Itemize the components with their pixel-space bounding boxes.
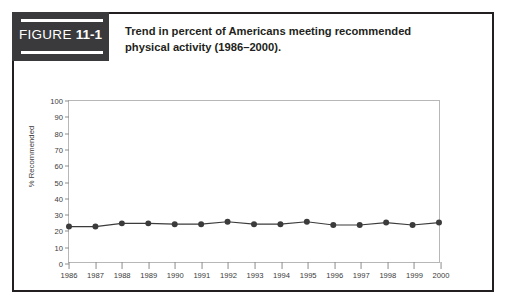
x-axis-tick-label: 1993 (247, 271, 264, 280)
y-axis-tick: 20 (55, 227, 69, 236)
x-axis-tick: 1986 (61, 262, 78, 280)
y-axis-tick-mark (65, 182, 69, 183)
line-series (69, 101, 439, 262)
x-axis-tick: 1998 (379, 262, 396, 280)
y-axis-tick: 60 (55, 162, 69, 171)
y-axis-tick-mark (65, 247, 69, 248)
x-axis-tick-mark (122, 262, 123, 269)
x-axis-tick-label: 1997 (353, 271, 370, 280)
x-axis-tick: 1987 (87, 262, 104, 280)
figure-number-block: FIGURE 11-1 (12, 12, 109, 61)
x-axis-tick: 1997 (353, 262, 370, 280)
x-axis-tick-mark (148, 262, 149, 269)
y-axis-tick: 40 (55, 194, 69, 203)
y-axis-tick-label: 60 (55, 162, 65, 171)
y-axis-tick: 50 (55, 178, 69, 187)
y-axis-tick-mark (65, 198, 69, 199)
chart-area: % Recommended 01020304050607080901001986… (14, 88, 492, 288)
y-axis-tick-label: 40 (55, 194, 65, 203)
x-axis-tick-label: 1994 (273, 271, 290, 280)
y-axis-tick-mark (65, 149, 69, 150)
x-axis-tick-mark (361, 262, 362, 269)
data-point-marker (330, 222, 336, 228)
x-axis-tick: 1999 (406, 262, 423, 280)
x-axis-tick-label: 1987 (87, 271, 104, 280)
x-axis-tick: 1996 (326, 262, 343, 280)
figure-word: FIGURE (19, 27, 72, 42)
figure-number-label: FIGURE 11-1 (12, 27, 109, 42)
data-point-marker (277, 221, 283, 227)
x-axis-tick-label: 1991 (193, 271, 210, 280)
data-point-marker (225, 219, 231, 225)
y-axis-tick: 80 (55, 129, 69, 138)
figure-container: FIGURE 11-1 Trend in percent of American… (0, 0, 508, 308)
x-axis-tick-label: 1988 (114, 271, 131, 280)
y-axis-tick: 90 (55, 113, 69, 122)
y-axis-tick-mark (65, 215, 69, 216)
x-axis-tick-label: 1986 (61, 271, 78, 280)
x-axis-tick: 1989 (140, 262, 157, 280)
x-axis-tick-mark (95, 262, 96, 269)
y-axis-tick-mark (65, 101, 69, 102)
x-axis-tick-mark (201, 262, 202, 269)
x-axis-tick-mark (387, 262, 388, 269)
y-axis-tick: 30 (55, 211, 69, 220)
y-axis-tick-label: 50 (55, 178, 65, 187)
y-axis-tick-label: 90 (55, 113, 65, 122)
x-axis-tick: 1993 (247, 262, 264, 280)
x-axis-tick: 1991 (193, 262, 210, 280)
data-point-marker (92, 224, 98, 230)
y-axis-tick: 70 (55, 145, 69, 154)
figure-block-rule-top (21, 19, 103, 22)
x-axis-tick-label: 1996 (326, 271, 343, 280)
x-axis-tick-label: 1995 (300, 271, 317, 280)
x-axis-tick: 2000 (433, 262, 450, 280)
y-axis-tick-mark (65, 133, 69, 134)
x-axis-tick-label: 1990 (167, 271, 184, 280)
x-axis-tick: 1992 (220, 262, 237, 280)
y-axis-tick-label: 100 (50, 97, 65, 106)
y-axis-tick: 100 (50, 97, 69, 106)
data-point-marker (198, 221, 204, 227)
y-axis-tick-label: 20 (55, 227, 65, 236)
y-axis-tick-mark (65, 231, 69, 232)
figure-caption: Trend in percent of Americans meeting re… (125, 24, 455, 56)
y-axis-tick-mark (65, 117, 69, 118)
data-point-marker (383, 220, 389, 226)
x-axis-tick-mark (69, 262, 70, 269)
plot-region: 0102030405060708090100198619871988198919… (68, 100, 440, 263)
x-axis-tick-label: 1998 (379, 271, 396, 280)
x-axis-tick-mark (228, 262, 229, 269)
y-axis-title: % Recommended (27, 102, 36, 212)
data-point-marker (436, 220, 442, 226)
x-axis-tick: 1995 (300, 262, 317, 280)
x-axis-tick-mark (308, 262, 309, 269)
y-axis-tick-label: 30 (55, 211, 65, 220)
x-axis-tick-label: 1989 (140, 271, 157, 280)
caption-line-1: Trend in percent of Americans meeting re… (125, 24, 455, 40)
x-axis-tick-mark (334, 262, 335, 269)
x-axis-tick: 1994 (273, 262, 290, 280)
y-axis-tick: 10 (55, 243, 69, 252)
y-axis-tick-label: 10 (55, 243, 65, 252)
data-point-marker (304, 219, 310, 225)
x-axis-tick-mark (441, 262, 442, 269)
figure-number: 11-1 (76, 27, 102, 42)
caption-line-2: physical activity (1986–2000). (125, 40, 455, 56)
x-axis-tick-label: 1999 (406, 271, 423, 280)
y-axis-tick-label: 80 (55, 129, 65, 138)
x-axis-tick-mark (255, 262, 256, 269)
y-axis-tick-mark (65, 166, 69, 167)
x-axis-tick-mark (175, 262, 176, 269)
x-axis-tick: 1988 (114, 262, 131, 280)
x-axis-tick-label: 1992 (220, 271, 237, 280)
x-axis-tick: 1990 (167, 262, 184, 280)
data-point-marker (119, 220, 125, 226)
x-axis-tick-label: 2000 (433, 271, 450, 280)
figure-block-rule-bottom (21, 51, 103, 54)
data-point-marker (145, 220, 151, 226)
data-point-marker (251, 221, 257, 227)
x-axis-tick-mark (281, 262, 282, 269)
x-axis-tick-mark (414, 262, 415, 269)
data-point-marker (410, 222, 416, 228)
